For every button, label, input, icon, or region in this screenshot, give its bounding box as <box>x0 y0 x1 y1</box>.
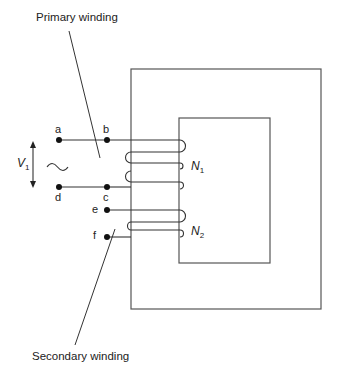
primary-winding <box>59 140 186 189</box>
terminal-a-label: a <box>55 123 61 135</box>
secondary-turns-label: N2 <box>191 224 204 240</box>
primary-turns-subscript: 1 <box>200 166 204 175</box>
ac-source-icon <box>47 164 68 171</box>
core-window <box>179 118 270 263</box>
terminal-e-dot <box>104 207 110 213</box>
transformer-diagram: Primary winding Secondary winding a b c … <box>0 0 337 375</box>
terminal-d-dot <box>56 184 62 190</box>
terminal-d-label: d <box>55 191 61 203</box>
secondary-turns-symbol: N <box>191 224 200 238</box>
voltage-symbol: V <box>17 156 25 170</box>
transformer-core <box>131 69 321 309</box>
primary-winding-label: Primary winding <box>36 11 118 23</box>
secondary-leader-line <box>75 229 115 345</box>
terminal-f-dot <box>104 234 110 240</box>
terminal-c-label: c <box>103 191 109 203</box>
terminal-e-label: e <box>92 203 98 215</box>
terminal-f-label: f <box>93 229 96 241</box>
terminal-a-dot <box>56 137 62 143</box>
diagram-graphics <box>0 0 337 375</box>
voltage-subscript: 1 <box>25 163 29 172</box>
core-outer-edge <box>131 69 321 309</box>
voltage-arrow-icon <box>30 141 36 188</box>
terminals <box>56 137 110 240</box>
terminal-c-dot <box>104 184 110 190</box>
terminal-b-dot <box>104 137 110 143</box>
primary-turns-symbol: N <box>191 159 200 173</box>
primary-leader-line <box>69 31 100 158</box>
secondary-winding <box>107 210 186 237</box>
secondary-winding-label: Secondary winding <box>32 350 129 362</box>
voltage-label: V1 <box>17 156 29 172</box>
secondary-turns-subscript: 2 <box>200 231 204 240</box>
primary-turns-label: N1 <box>191 159 204 175</box>
terminal-b-label: b <box>103 123 109 135</box>
